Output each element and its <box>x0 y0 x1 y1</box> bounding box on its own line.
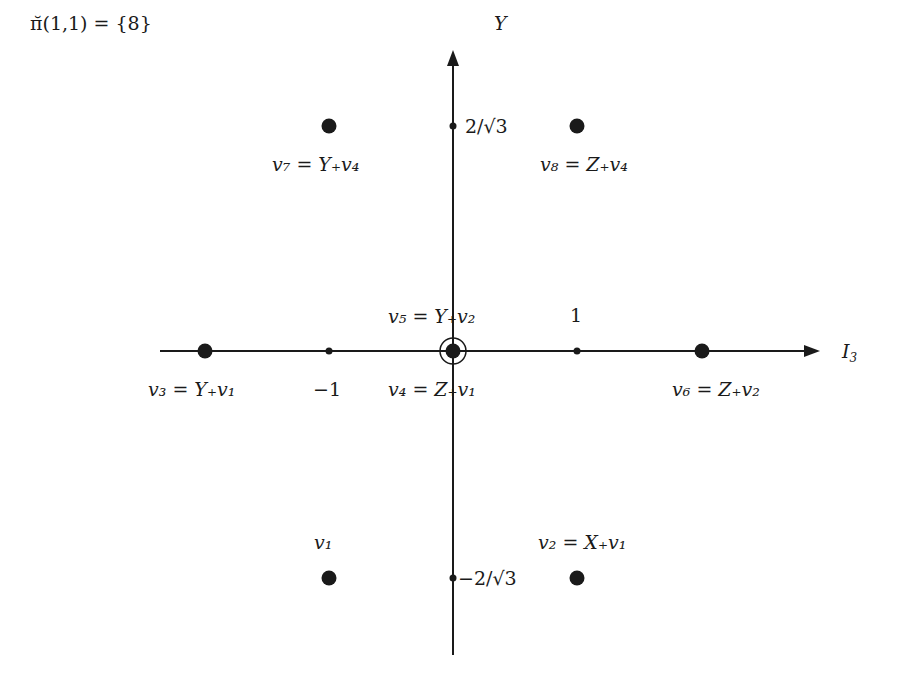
y-axis-label: Y <box>494 14 507 33</box>
x-axis-arrow-icon <box>804 345 820 357</box>
weight-v4-v5 <box>446 344 461 359</box>
tick-label-pos: 2/√3 <box>465 117 508 136</box>
weight-v7 <box>322 119 337 134</box>
label-v4: v₄ = Z₊v₁ <box>388 380 476 399</box>
label-v7: v₇ = Y₊v₄ <box>272 155 359 174</box>
x-axis-label-main: I <box>842 340 850 362</box>
y-axis-arrow-icon <box>447 50 459 66</box>
tick-label-plus1: 1 <box>570 306 582 325</box>
label-v5: v₅ = Y₊v₂ <box>388 307 475 326</box>
tick-x-minus1 <box>326 348 333 355</box>
weight-v3 <box>198 344 213 359</box>
weight-diagram <box>0 0 910 693</box>
weight-v6 <box>695 344 710 359</box>
label-v3: v₃ = Y₊v₁ <box>148 380 235 399</box>
tick-label-minus1: −1 <box>313 380 341 399</box>
label-v6: v₆ = Z₊v₂ <box>672 380 760 399</box>
tick-y-pos <box>450 123 457 130</box>
tick-label-neg: −2/√3 <box>458 569 517 588</box>
x-axis-label-sub: 3 <box>850 351 858 365</box>
weight-v2 <box>570 571 585 586</box>
tick-y-neg <box>450 575 457 582</box>
label-v1: v₁ <box>314 533 332 552</box>
tick-x-plus1 <box>574 348 581 355</box>
label-v8: v₈ = Z₊v₄ <box>540 155 628 174</box>
label-v2: v₂ = X₊v₁ <box>538 533 626 552</box>
weight-v8 <box>570 119 585 134</box>
x-axis-label: I3 <box>842 342 857 364</box>
diagram-title: π̆(1,1) = {8} <box>30 14 152 33</box>
weight-v1 <box>322 571 337 586</box>
